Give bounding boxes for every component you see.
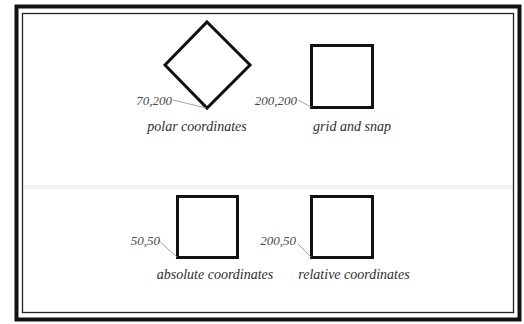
panel-grid-and-snap: 200,200 grid and snap — [255, 46, 391, 135]
caption: grid and snap — [313, 119, 391, 134]
caption: absolute coordinates — [157, 267, 274, 282]
coordinate-label: 200,50 — [260, 233, 296, 248]
leader-line — [158, 240, 177, 257]
coordinate-label: 70,200 — [136, 93, 172, 108]
diagram-canvas: 70,200 polar coordinates 200,200 grid an… — [0, 0, 524, 324]
leader-line — [298, 244, 311, 257]
diamond-shape[interactable] — [165, 22, 250, 108]
caption: relative coordinates — [298, 267, 410, 282]
coordinate-label: 50,50 — [131, 233, 161, 248]
coordinate-label: 200,200 — [255, 93, 298, 108]
square-shape[interactable] — [312, 197, 373, 258]
panel-polar-coordinates: 70,200 polar coordinates — [136, 22, 250, 134]
square-shape[interactable] — [312, 46, 373, 108]
panel-absolute-coordinates: 50,50 absolute coordinates — [131, 197, 274, 283]
panel-relative-coordinates: 200,50 relative coordinates — [260, 197, 410, 283]
leader-line — [298, 100, 311, 107]
caption: polar coordinates — [146, 119, 247, 134]
faint-divider-band — [24, 185, 513, 189]
square-shape[interactable] — [178, 197, 238, 258]
